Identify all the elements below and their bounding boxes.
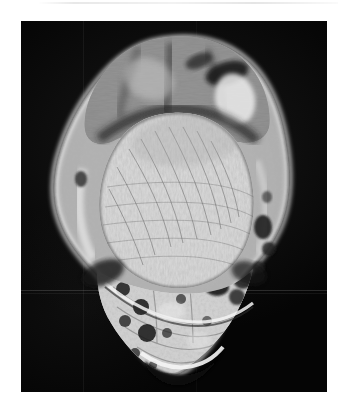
scanner-streak-artifact [38, 2, 338, 4]
anatomy-overlay [21, 21, 327, 392]
anatomy-svg [21, 21, 327, 392]
figure-page [0, 0, 346, 410]
mri-image-plate [21, 21, 327, 392]
figure-caption [236, 399, 306, 408]
